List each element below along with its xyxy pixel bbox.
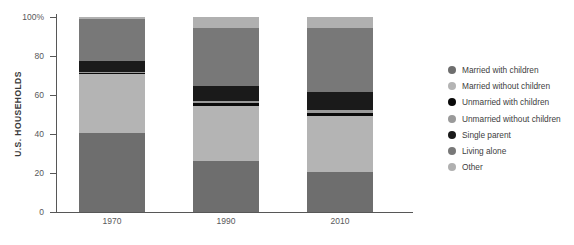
legend-item[interactable]: Other — [448, 159, 561, 175]
legend-item[interactable]: Unmarried without children — [448, 111, 561, 127]
bar-segment[interactable] — [79, 133, 145, 212]
bar-1970[interactable] — [79, 17, 145, 212]
y-axis-title: U.S. HOUSEHOLDS — [13, 49, 23, 179]
bar-2010[interactable] — [307, 17, 373, 212]
bar-segment[interactable] — [307, 28, 373, 92]
legend-item[interactable]: Single parent — [448, 127, 561, 143]
bar-segment[interactable] — [79, 74, 145, 133]
y-axis-tick-label: 60 — [0, 90, 44, 100]
bar-segment[interactable] — [307, 172, 373, 212]
legend-item[interactable]: Unmarried with children — [448, 94, 561, 110]
bar-segment[interactable] — [307, 17, 373, 28]
legend-swatch-icon — [448, 66, 456, 74]
legend-item-label: Single parent — [462, 131, 511, 139]
legend-swatch-icon — [448, 147, 456, 155]
plot-area — [57, 17, 413, 212]
x-axis-label-1990: 1990 — [181, 216, 271, 226]
y-axis-tick — [50, 95, 56, 96]
x-axis-label-2010: 2010 — [295, 216, 385, 226]
bar-segment[interactable] — [193, 17, 259, 28]
legend-swatch-icon — [448, 82, 456, 90]
legend-item-label: Unmarried without children — [462, 115, 561, 123]
legend-item-label: Living alone — [462, 147, 506, 155]
bar-segment[interactable] — [79, 61, 145, 72]
stacked-bar-chart: U.S. HOUSEHOLDS 100%806040200 1970199020… — [0, 0, 574, 245]
legend-swatch-icon — [448, 163, 456, 171]
legend-swatch-icon — [448, 98, 456, 106]
legend-item-label: Married with children — [462, 66, 539, 74]
y-axis-tick-label: 20 — [0, 168, 44, 178]
legend-item[interactable]: Married without children — [448, 78, 561, 94]
y-axis-tick-label: 80 — [0, 51, 44, 61]
legend-item-label: Married without children — [462, 82, 550, 90]
y-axis-tick — [50, 56, 56, 57]
y-axis-tick-label: 100% — [0, 12, 44, 22]
legend-item-label: Unmarried with children — [462, 98, 549, 106]
y-axis-tick — [50, 212, 56, 213]
legend-item[interactable]: Living alone — [448, 143, 561, 159]
x-axis-label-1970: 1970 — [67, 216, 157, 226]
bar-segment[interactable] — [307, 92, 373, 110]
y-axis-tick-label: 0 — [0, 207, 44, 217]
legend-swatch-icon — [448, 115, 456, 123]
bar-segment[interactable] — [193, 28, 259, 87]
y-axis-tick-label: 40 — [0, 129, 44, 139]
chart-legend: Married with childrenMarried without chi… — [448, 62, 561, 175]
bar-1990[interactable] — [193, 17, 259, 212]
legend-item-label: Other — [462, 163, 483, 171]
y-axis-tick — [50, 173, 56, 174]
legend-swatch-icon — [448, 131, 456, 139]
bar-segment[interactable] — [79, 19, 145, 61]
bar-segment[interactable] — [193, 161, 259, 212]
y-axis-tick — [50, 17, 56, 18]
bar-segment[interactable] — [307, 116, 373, 172]
y-axis-tick — [50, 134, 56, 135]
bar-segment[interactable] — [193, 106, 259, 162]
bar-segment[interactable] — [193, 86, 259, 101]
x-axis-line — [56, 212, 413, 213]
legend-item[interactable]: Married with children — [448, 62, 561, 78]
